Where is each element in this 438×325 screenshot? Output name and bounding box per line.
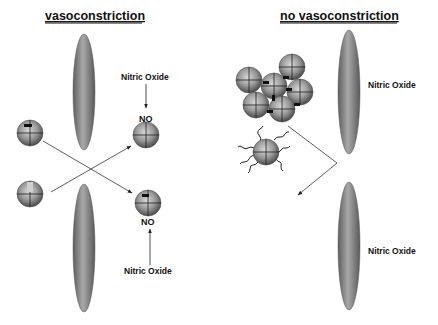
left-top-right-sphere [133,122,159,148]
left-top-nitric-oxide-label: Nitric Oxide [121,72,169,82]
right-bottom-nitric-oxide-label: Nitric Oxide [368,246,416,256]
left-bottom-no-label: NO [141,217,155,227]
left-bottom-vessel-cell [73,184,95,312]
negative-charge-icon [294,103,300,106]
crossing-arrow-down [43,141,132,193]
deflection-arrow [288,126,337,195]
left-top-vessel-cell [73,34,95,150]
negative-charge-icon [267,110,273,113]
diagram-canvas: vasoconstriction Nitric Oxide NO NO Nitr… [0,0,438,325]
right-panel-title: no vasoconstriction [280,9,399,23]
right-bottom-vessel-cell [338,182,360,310]
left-charged-sphere-top [17,120,43,146]
cluster-sphere [279,54,305,80]
negative-charge-icon [283,76,289,79]
cluster-sphere [243,92,269,118]
neutral-patch [27,182,33,192]
aggregated-sphere-cluster [236,54,313,122]
negative-charge-icon [24,124,32,127]
right-top-nitric-oxide-label: Nitric Oxide [368,80,416,90]
left-panel-title: vasoconstriction [45,9,145,23]
negative-charge-icon [263,81,269,84]
negative-charge-icon [142,194,149,197]
negative-charge-icon [286,88,292,91]
right-top-vessel-cell [338,30,360,154]
left-bottom-right-sphere [135,190,161,216]
glycocalyx-sphere [238,126,290,173]
negative-charge-icon [272,95,275,101]
coated-sphere [253,139,279,165]
left-bottom-nitric-oxide-label: Nitric Oxide [124,266,172,276]
cluster-sphere [236,67,262,93]
